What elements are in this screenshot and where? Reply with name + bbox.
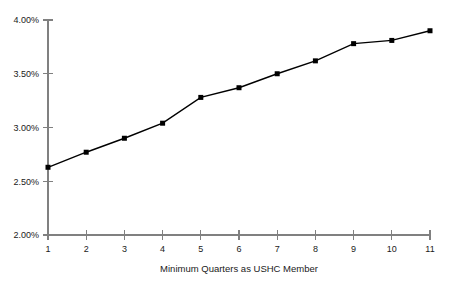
x-tick-label: 3: [122, 244, 127, 254]
x-tick-label: 2: [84, 244, 89, 254]
y-tick-label: 3.00%: [13, 123, 39, 133]
x-tick-label: 1: [45, 244, 50, 254]
x-tick-label: 8: [313, 244, 318, 254]
data-point-marker: [237, 85, 242, 90]
x-tick-label: 11: [425, 244, 434, 254]
data-point-marker: [160, 121, 165, 126]
y-axis-ticks: 2.00%2.50%3.00%3.50%4.00%: [13, 15, 53, 240]
line-chart: 2.00%2.50%3.00%3.50%4.00% 1234567891011 …: [0, 0, 449, 288]
x-tick-label: 6: [236, 244, 241, 254]
x-axis-ticks: 1234567891011: [45, 230, 434, 254]
x-tick-label: 9: [351, 244, 356, 254]
data-point-marker: [351, 41, 356, 46]
data-point-marker: [46, 165, 51, 170]
data-point-marker: [428, 28, 433, 33]
data-point-marker: [275, 71, 280, 76]
data-point-marker: [389, 38, 394, 43]
data-series-line: [48, 31, 430, 168]
axes-group: [48, 20, 430, 235]
data-point-marker: [313, 58, 318, 63]
data-point-marker: [122, 136, 127, 141]
y-tick-label: 4.00%: [13, 15, 39, 25]
data-point-markers: [46, 28, 433, 170]
x-tick-label: 4: [160, 244, 165, 254]
x-tick-label: 7: [275, 244, 280, 254]
y-tick-label: 2.50%: [13, 177, 39, 187]
x-axis-title: Minimum Quarters as USHC Member: [160, 263, 318, 274]
x-tick-label: 5: [198, 244, 203, 254]
data-point-marker: [198, 95, 203, 100]
y-tick-label: 3.50%: [13, 69, 39, 79]
data-point-marker: [84, 150, 89, 155]
x-tick-label: 10: [387, 244, 397, 254]
y-tick-label: 2.00%: [13, 230, 39, 240]
chart-container: 2.00%2.50%3.00%3.50%4.00% 1234567891011 …: [0, 0, 449, 288]
